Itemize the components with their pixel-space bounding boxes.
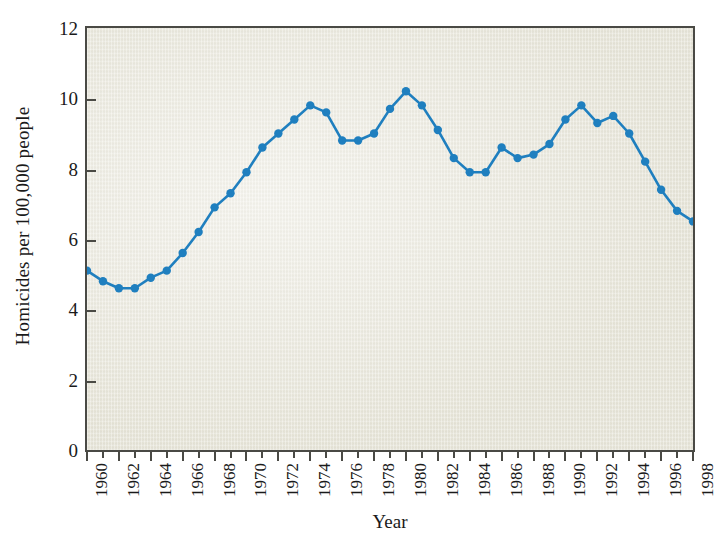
x-tick-mark [692, 452, 694, 461]
x-tick-label: 1976 [348, 463, 365, 497]
x-tick-label: 1986 [508, 463, 525, 497]
x-tick-mark [277, 452, 279, 461]
y-tick-label: 12 [42, 19, 78, 38]
x-tick-mark [421, 452, 423, 458]
data-point-marker [338, 136, 346, 144]
x-tick-label: 1972 [284, 463, 301, 497]
data-point-marker [306, 101, 314, 109]
series-line [87, 91, 693, 288]
x-tick-mark [644, 452, 646, 458]
data-point-marker [625, 129, 633, 137]
x-tick-label: 1966 [189, 463, 206, 497]
data-point-marker [290, 115, 298, 123]
x-tick-label: 1980 [412, 463, 429, 497]
x-tick-label: 1982 [444, 463, 461, 497]
data-point-marker [418, 101, 426, 109]
x-tick-label: 1990 [571, 463, 588, 497]
x-tick-mark [533, 452, 535, 461]
data-point-marker [322, 108, 330, 116]
data-point-marker [466, 168, 474, 176]
data-point-marker [386, 105, 394, 113]
x-tick-mark [309, 452, 311, 461]
data-point-marker [131, 284, 139, 292]
data-point-marker [99, 277, 107, 285]
data-point-marker [529, 150, 537, 158]
y-tick-label: 0 [42, 441, 78, 460]
x-tick-mark [261, 452, 263, 458]
data-point-marker [226, 189, 234, 197]
data-point-marker [194, 228, 202, 236]
chart-figure: Homicides per 100,000 people 024681012 1… [0, 0, 722, 545]
x-tick-mark [469, 452, 471, 461]
data-point-marker [370, 129, 378, 137]
x-tick-mark [501, 452, 503, 461]
y-tick-label: 2 [42, 370, 78, 389]
y-tick-mark [87, 99, 96, 101]
data-point-marker [402, 87, 410, 95]
x-tick-mark [341, 452, 343, 461]
y-tick-label: 4 [42, 300, 78, 319]
data-point-marker [147, 273, 155, 281]
x-tick-mark [373, 452, 375, 461]
data-point-marker [242, 168, 250, 176]
data-point-marker [593, 119, 601, 127]
x-tick-mark [166, 452, 168, 458]
x-tick-mark [548, 452, 550, 458]
data-point-marker [434, 126, 442, 134]
x-tick-label: 1994 [635, 463, 652, 497]
x-tick-label: 1978 [380, 463, 397, 497]
y-tick-label: 6 [42, 230, 78, 249]
x-tick-label: 1988 [540, 463, 557, 497]
x-tick-label: 1970 [252, 463, 269, 497]
x-tick-label: 1962 [125, 463, 142, 497]
data-point-marker [210, 203, 218, 211]
x-tick-mark [453, 452, 455, 458]
x-tick-mark [245, 452, 247, 461]
x-tick-mark [182, 452, 184, 461]
x-axis-tick-marks [85, 452, 695, 463]
plot-area [85, 26, 695, 452]
data-point-marker [163, 266, 171, 274]
data-point-marker [609, 112, 617, 120]
x-tick-mark [134, 452, 136, 458]
data-point-marker [513, 154, 521, 162]
x-tick-mark [660, 452, 662, 461]
data-point-marker [481, 168, 489, 176]
data-point-marker [577, 101, 585, 109]
x-tick-mark [293, 452, 295, 458]
x-tick-label: 1998 [699, 463, 716, 497]
x-tick-mark [325, 452, 327, 458]
data-point-marker [641, 157, 649, 165]
data-point-marker [561, 115, 569, 123]
x-tick-mark [214, 452, 216, 461]
x-tick-mark [485, 452, 487, 458]
data-point-marker [497, 143, 505, 151]
x-tick-mark [612, 452, 614, 458]
x-tick-mark [580, 452, 582, 458]
x-tick-mark [118, 452, 120, 461]
y-tick-mark [87, 310, 96, 312]
data-point-marker [673, 207, 681, 215]
y-tick-label: 10 [42, 89, 78, 108]
y-axis-tick-labels: 024681012 [30, 0, 78, 545]
y-tick-mark [87, 170, 96, 172]
x-tick-mark [564, 452, 566, 461]
x-tick-mark [150, 452, 152, 461]
data-point-marker [274, 129, 282, 137]
data-point-marker [258, 143, 266, 151]
data-point-marker [657, 186, 665, 194]
series-canvas [87, 28, 693, 450]
x-tick-mark [102, 452, 104, 458]
x-tick-mark [596, 452, 598, 461]
x-tick-label: 1974 [316, 463, 333, 497]
data-point-marker [178, 249, 186, 257]
data-point-marker [545, 140, 553, 148]
x-tick-mark [676, 452, 678, 458]
x-tick-mark [628, 452, 630, 461]
y-tick-label: 8 [42, 159, 78, 178]
x-tick-label: 1968 [221, 463, 238, 497]
x-tick-label: 1992 [603, 463, 620, 497]
x-tick-mark [357, 452, 359, 458]
x-tick-mark [437, 452, 439, 461]
x-tick-mark [198, 452, 200, 458]
